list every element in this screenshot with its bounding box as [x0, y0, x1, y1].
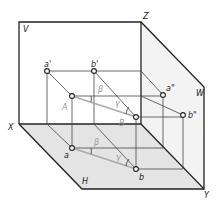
point-a-dprime	[161, 93, 166, 98]
label-A: A	[61, 103, 67, 112]
point-A	[70, 94, 75, 99]
point-b-prime	[92, 69, 97, 74]
label-a: a	[64, 151, 69, 160]
label-axis-y: Y	[204, 191, 210, 200]
label-plane-h: H	[82, 177, 88, 186]
label-b-prime: b'	[91, 60, 98, 69]
point-a	[70, 146, 75, 151]
label-axis-x: X	[7, 123, 14, 132]
label-beta-h: β	[93, 138, 99, 147]
point-a-prime	[45, 69, 50, 74]
label-b-dprime: b"	[188, 111, 197, 120]
label-beta-v: β	[97, 85, 103, 94]
point-b-dprime	[181, 113, 186, 118]
label-B: B	[119, 119, 125, 128]
label-a-dprime: a"	[166, 84, 175, 93]
point-b	[134, 167, 139, 172]
label-a-prime: a'	[44, 60, 51, 69]
label-b: b	[139, 173, 144, 182]
label-gamma-v: γ	[115, 99, 121, 108]
projection-diagram: V Z W X H Y a' b' a" b" a b A B β γ β γ	[0, 0, 218, 207]
point-B	[134, 115, 139, 120]
label-plane-w: W	[196, 89, 205, 98]
label-axis-z: Z	[142, 12, 149, 21]
label-plane-v: V	[23, 25, 29, 34]
